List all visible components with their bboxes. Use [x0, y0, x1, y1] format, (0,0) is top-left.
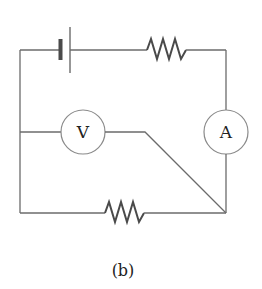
ammeter-label: A [219, 122, 233, 142]
top-resistor-icon [147, 39, 186, 59]
voltmeter: V [61, 110, 105, 154]
bottom-resistor-icon [105, 202, 144, 222]
ammeter: A [204, 110, 248, 154]
voltmeter-label: V [76, 122, 90, 142]
circuit-diagram: A V (b) [0, 0, 262, 289]
battery-icon [59, 27, 71, 73]
figure-caption: (b) [112, 261, 135, 280]
